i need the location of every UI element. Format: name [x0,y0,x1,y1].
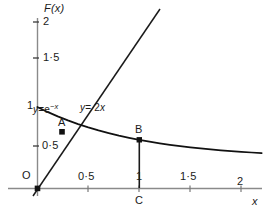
point-label-c: C [135,195,143,206]
curve-label-line: y= 2x [80,103,105,113]
x-tick-label-1: 1 [136,171,142,182]
point-label-b: B [135,124,143,135]
y-tick-label-1-5: 1·5 [43,52,60,63]
y-axis-title: F(x) [44,3,64,14]
point-label-a: A [58,117,66,128]
point-marker-a [59,129,65,135]
origin-label: O [22,170,31,181]
curve-y-equals-exp-minus-x [37,107,261,153]
curve-label-line-eq: = 2 [85,102,100,113]
x-axis-title: x [252,196,258,207]
curve-label-exp-exponent: −x [50,102,59,111]
point-marker-origin [35,186,41,192]
curve-label-exp-eq: =e [38,104,50,115]
point-marker-b [137,137,142,142]
y-tick-label-2: 2 [43,16,49,27]
y-tick-label-0-5: 0·5 [42,140,59,151]
graph-figure: F(x) 2 1·5 1 0·5 O 0·5 1 1·5 2 x y=e−x y… [0,0,266,216]
x-tick-label-0-5: 0·5 [78,171,95,182]
curve-label-exponential: y=e−x [33,103,59,115]
curve-label-line-var: x [100,102,105,113]
x-tick-label-2: 2 [237,176,243,187]
x-tick-label-1-5: 1·5 [180,171,197,182]
